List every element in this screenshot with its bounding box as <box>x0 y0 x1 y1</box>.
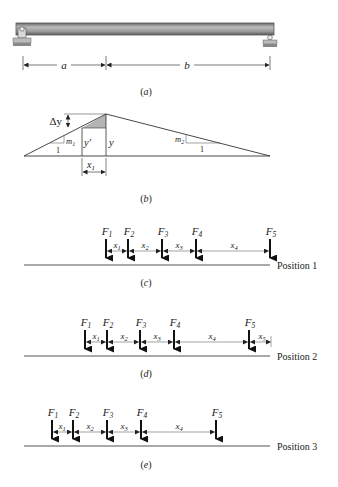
force-F2: F2 <box>102 316 114 330</box>
roller-support-right <box>263 35 277 47</box>
slope-m1-label: m1 <box>66 136 75 147</box>
force-F1: F1 <box>47 406 58 420</box>
caption-e: (e) <box>140 459 151 471</box>
spacing-x2: x2 <box>85 421 94 432</box>
force-F1: F1 <box>80 316 91 330</box>
spacing-x3: x3 <box>119 421 128 432</box>
figure-e-position-3: F1 F2 F3 F4 F5 x1 x2 x3 x4 Position 3 (e… <box>24 406 317 471</box>
caption-b: (b) <box>140 193 152 205</box>
figure-d-position-2: F1 F2 F3 F4 F5 x1 x2 x3 x4 x5 Position 2… <box>24 316 317 380</box>
run-1-right: 1 <box>200 145 204 154</box>
caption-d: (d) <box>140 368 152 380</box>
spacing-x1: x1 <box>112 240 120 251</box>
beam <box>16 23 274 35</box>
influence-line-figure: a b (a) Δy y′ y m1 1 m2 1 x1 (b) <box>0 0 338 487</box>
dimension-a-b <box>23 56 270 70</box>
force-F3: F3 <box>102 406 114 420</box>
figure-a-beam: a b (a) <box>13 23 277 98</box>
figure-c-position-1: F1 F2 F3 F4 F5 x1 x2 x3 x4 Position 1 (c… <box>24 225 317 289</box>
figure-b-influence-line: Δy y′ y m1 1 m2 1 x1 (b) <box>24 114 270 205</box>
spacing-x4: x4 <box>207 331 216 342</box>
force-F5: F5 <box>244 316 256 330</box>
x1-label: x1 <box>86 159 95 172</box>
position-2-label: Position 2 <box>277 351 317 362</box>
force-F3: F3 <box>157 225 169 239</box>
spacing-x1: x1 <box>91 331 99 342</box>
y-label: y <box>108 137 114 148</box>
y-prime-label: y′ <box>83 137 92 148</box>
spacing-x4: x4 <box>229 240 238 251</box>
force-F4: F4 <box>136 406 148 420</box>
spacing-x4: x4 <box>174 421 183 432</box>
force-F4: F4 <box>191 225 203 239</box>
force-F4: F4 <box>169 316 181 330</box>
spacing-x3: x3 <box>152 331 161 342</box>
spacing-x2: x2 <box>119 331 128 342</box>
force-F3: F3 <box>135 316 147 330</box>
dim-label-b: b <box>184 59 190 71</box>
position-3-label: Position 3 <box>277 441 317 452</box>
spacing-x5: x5 <box>257 331 266 342</box>
slope-m2-label: m2 <box>175 134 184 145</box>
run-1-left: 1 <box>56 146 60 155</box>
force-F5: F5 <box>211 406 223 420</box>
dim-label-a: a <box>61 59 67 71</box>
spacing-x3: x3 <box>174 240 183 251</box>
delta-y-label: Δy <box>49 115 62 127</box>
spacing-x1: x1 <box>57 421 65 432</box>
caption-c: (c) <box>140 277 151 289</box>
spacing-x2: x2 <box>140 240 149 251</box>
force-F5: F5 <box>265 225 277 239</box>
position-1-label: Position 1 <box>277 260 317 271</box>
caption-a: (a) <box>140 86 152 98</box>
force-F2: F2 <box>68 406 80 420</box>
force-F2: F2 <box>123 225 135 239</box>
force-F1: F1 <box>101 225 112 239</box>
